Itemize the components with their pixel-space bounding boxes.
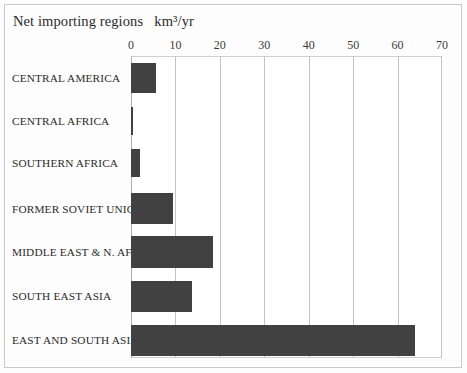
- x-tick-label: 70: [436, 38, 448, 53]
- x-tick-label: 20: [214, 38, 226, 53]
- gridline-20: [220, 56, 221, 358]
- bar-2: [131, 149, 140, 177]
- x-tick-label: 60: [392, 38, 404, 53]
- bar-5: [131, 281, 192, 312]
- category-label-1: CENTRAL AFRICA: [12, 115, 109, 127]
- bar-1: [131, 107, 133, 135]
- category-label-5: SOUTH EAST ASIA: [12, 290, 111, 302]
- category-label-3: FORMER SOVIET UNION: [12, 203, 143, 215]
- x-tick-label: 10: [169, 38, 181, 53]
- gridline-10: [175, 56, 176, 358]
- gridline-40: [309, 56, 310, 358]
- x-tick-label: 30: [258, 38, 270, 53]
- bar-0: [131, 63, 156, 93]
- plot-area: [131, 56, 442, 358]
- gridline-60: [398, 56, 399, 358]
- gridline-50: [353, 56, 354, 358]
- bar-chart-figure: Net importing regions km³/yr 01020304050…: [0, 0, 467, 373]
- category-label-0: CENTRAL AMERICA: [12, 72, 120, 84]
- x-tick-label: 0: [128, 38, 134, 53]
- category-label-6: EAST AND SOUTH ASIA: [12, 334, 139, 346]
- x-tick-label: 50: [347, 38, 359, 53]
- x-tick-label: 40: [303, 38, 315, 53]
- category-label-2: SOUTHERN AFRICA: [12, 157, 118, 169]
- bar-6: [131, 325, 415, 356]
- bar-3: [131, 193, 173, 224]
- page-title: Net importing regions km³/yr: [13, 13, 194, 30]
- gridline-30: [264, 56, 265, 358]
- bar-4: [131, 236, 213, 268]
- gridline-70: [441, 56, 442, 358]
